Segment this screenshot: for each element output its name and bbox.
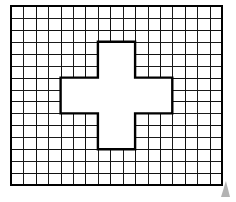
grid-cross-figure [0,0,236,202]
figure-root [0,0,236,202]
